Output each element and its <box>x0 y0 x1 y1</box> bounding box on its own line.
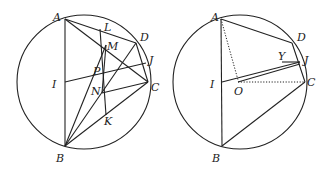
label-Y: Y <box>278 50 287 63</box>
label-O: O <box>234 85 243 98</box>
label-D: D <box>139 31 149 44</box>
right-figure: A D Y J I O C B <box>173 11 316 165</box>
label-N: N <box>90 85 101 98</box>
segment-LK <box>100 29 106 115</box>
circumcircle-right <box>173 15 307 149</box>
dotted-AO <box>221 19 238 80</box>
label-A: A <box>52 11 61 24</box>
label-J: J <box>147 54 154 67</box>
segment-OJ <box>238 64 300 82</box>
label-B: B <box>55 152 64 165</box>
right-labels: A D Y J I O C B <box>209 11 316 165</box>
geometry-diagram: A L D M J P I C N K B A D Y J I O <box>0 0 330 169</box>
left-figure: A L D M J P I C N K B <box>17 11 160 165</box>
label-L: L <box>103 21 111 34</box>
label-P: P <box>92 65 101 78</box>
label-M: M <box>106 40 119 53</box>
segment-AB <box>221 19 222 146</box>
label-C: C <box>151 81 160 94</box>
segment-AD <box>221 19 292 43</box>
label-C: C <box>307 76 316 89</box>
label-D: D <box>296 31 306 44</box>
circumcircle-left <box>17 15 151 149</box>
label-K: K <box>103 115 113 128</box>
segment-IJ <box>65 63 146 82</box>
label-J: J <box>302 54 309 67</box>
label-A: A <box>210 11 219 24</box>
label-I: I <box>209 78 215 91</box>
label-I: I <box>51 78 57 91</box>
label-B: B <box>211 152 220 165</box>
